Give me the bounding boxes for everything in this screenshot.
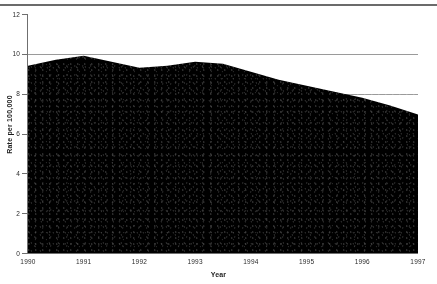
x-tick-label-1997: 1997 (398, 258, 437, 266)
y-tick-mark-0 (22, 253, 27, 254)
y-tick-label-10: 10 (0, 50, 20, 57)
x-tick-label-1995: 1995 (287, 258, 327, 266)
y-tick-mark-4 (22, 173, 27, 174)
x-tick-label-1994: 1994 (231, 258, 271, 266)
x-tick-label-1993: 1993 (175, 258, 215, 266)
y-tick-label-12: 12 (0, 11, 20, 18)
y-tick-mark-6 (22, 134, 27, 135)
y-tick-mark-12 (22, 14, 27, 15)
x-axis-title: Year (0, 270, 437, 279)
y-tick-mark-2 (22, 213, 27, 214)
y-tick-mark-10 (22, 54, 27, 55)
x-tick-label-1991: 1991 (64, 258, 104, 266)
y-axis-title: Rate per 100,000 (5, 65, 14, 185)
chart-figure: 121086420 199019911992199319941995199619… (0, 0, 437, 284)
y-tick-label-2: 2 (0, 210, 20, 217)
x-tick-label-1992: 1992 (119, 258, 159, 266)
area-path (28, 56, 418, 253)
plot-area (28, 14, 418, 253)
x-tick-label-1996: 1996 (342, 258, 382, 266)
area-series-rate-per-100000 (28, 14, 418, 253)
x-tick-label-1990: 1990 (8, 258, 48, 266)
x-axis-line (27, 253, 418, 254)
y-tick-label-0: 0 (0, 250, 20, 257)
y-tick-mark-8 (22, 94, 27, 95)
page-top-rule (0, 4, 437, 6)
